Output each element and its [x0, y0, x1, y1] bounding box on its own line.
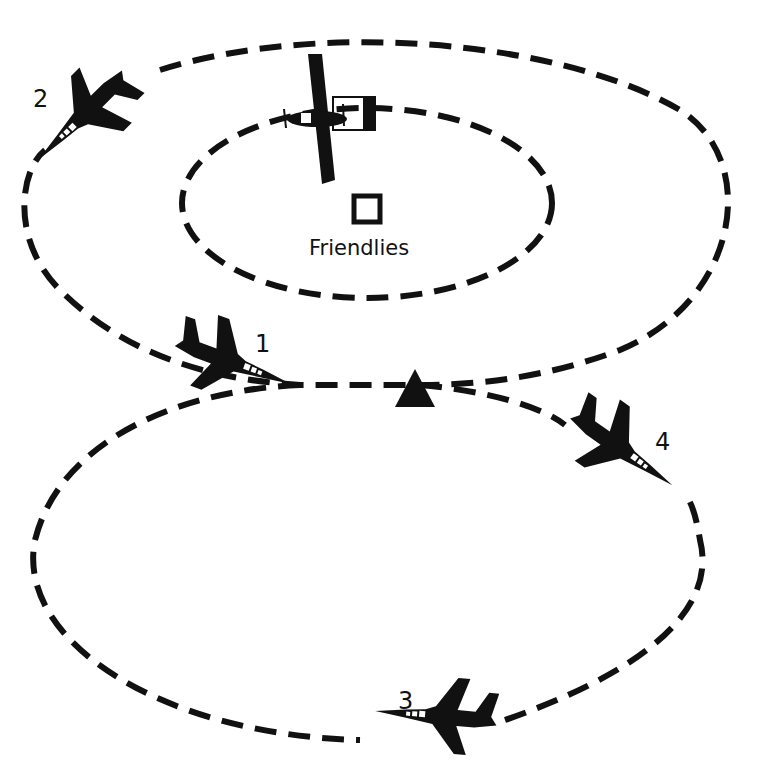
- jet-4-icon: [552, 382, 696, 514]
- fac-aircraft-icon: [284, 54, 375, 184]
- jet-3-icon: [372, 671, 500, 757]
- jet-3-label: 3: [398, 687, 413, 715]
- jet-2-label: 2: [33, 85, 48, 113]
- friendlies-label: Friendlies: [309, 236, 409, 260]
- jet-1-icon: [164, 305, 305, 418]
- diagram-canvas: [0, 0, 779, 782]
- friendlies-square-marker: [354, 196, 380, 222]
- jet-2-icon: [13, 48, 153, 188]
- jet-4-label: 4: [655, 428, 670, 456]
- inner-orbit-path: [182, 108, 552, 298]
- jet-1-label: 1: [255, 330, 270, 358]
